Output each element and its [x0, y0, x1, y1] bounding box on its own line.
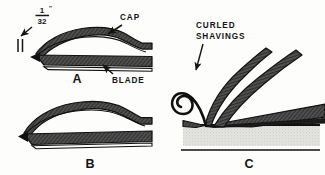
panel-caption-b: B: [85, 157, 94, 171]
curled-shavings-label-line2: SHAVINGS: [196, 32, 245, 41]
blade-body-a: [36, 55, 152, 67]
fraction-inch-mark: ″: [49, 5, 52, 11]
curled-shavings-label-line1: CURLED: [196, 21, 236, 30]
blade-body-b: [24, 131, 152, 145]
fraction-denominator: 32: [38, 17, 47, 26]
cap-label-a: CAP: [120, 13, 140, 22]
plane-iron-diagram: 1 ″ 32 CAP BLADE A: [0, 0, 325, 175]
blade-b: [24, 131, 152, 149]
blade-label-a: BLADE: [112, 76, 145, 85]
blade-a: [36, 55, 152, 71]
diagram-canvas: 1 ″ 32 CAP BLADE A: [0, 0, 325, 175]
workpiece-body-c: [183, 125, 320, 146]
fraction-numerator: 1: [40, 6, 45, 15]
panel-caption-a: A: [72, 72, 81, 86]
panel-caption-c: C: [244, 157, 253, 171]
